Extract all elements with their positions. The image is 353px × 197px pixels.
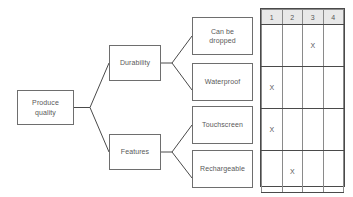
matrix-cell[interactable]: X (262, 109, 283, 151)
table-row: X (262, 67, 344, 109)
matrix-column-header-4[interactable]: 4 (323, 10, 344, 25)
matrix-mark: X (290, 168, 295, 175)
matrix-mark: X (269, 126, 274, 133)
matrix-cell[interactable] (282, 67, 303, 109)
matrix-column-header-2[interactable]: 2 (282, 10, 303, 25)
matrix-cell[interactable] (323, 109, 344, 151)
matrix-cell[interactable]: X (282, 151, 303, 193)
matrix-cell[interactable] (282, 25, 303, 67)
rating-matrix: 1 2 3 4 X X (260, 8, 345, 187)
node-features[interactable]: Features (109, 134, 161, 170)
node-can-be-dropped[interactable]: Can be dropped (192, 17, 253, 55)
table-row: X (262, 25, 344, 67)
matrix-cell[interactable] (303, 151, 324, 193)
connector-durability-to-candrop (172, 36, 192, 63)
node-touchscreen[interactable]: Touchscreen (192, 106, 253, 144)
matrix-cell[interactable]: X (262, 67, 283, 109)
connector-features-to-rechargeable (172, 152, 192, 178)
matrix-column-header-3[interactable]: 3 (303, 10, 324, 25)
matrix-cell[interactable] (323, 25, 344, 67)
matrix-cell[interactable] (323, 67, 344, 109)
matrix-cell[interactable] (262, 25, 283, 67)
matrix-cell[interactable] (282, 109, 303, 151)
table-row: X (262, 109, 344, 151)
connector-root-to-features (90, 108, 109, 153)
matrix-cell[interactable]: X (303, 25, 324, 67)
node-waterproof[interactable]: Waterproof (192, 63, 253, 101)
table-row: X (262, 151, 344, 193)
matrix-mark: X (269, 84, 274, 91)
matrix-cell[interactable] (262, 151, 283, 193)
node-root[interactable]: Produce quality (17, 90, 74, 125)
matrix-cell[interactable] (303, 67, 324, 109)
matrix-column-header-1[interactable]: 1 (262, 10, 283, 25)
connector-durability-to-waterproof (172, 63, 192, 90)
matrix-header-row: 1 2 3 4 (262, 10, 344, 25)
connector-features-to-touchscreen (172, 125, 192, 152)
rating-matrix-table: 1 2 3 4 X X (261, 9, 344, 193)
matrix-cell[interactable] (323, 151, 344, 193)
node-rechargeable[interactable]: Rechargeable (192, 150, 253, 188)
node-durability[interactable]: Durability (109, 45, 161, 81)
matrix-cell[interactable] (303, 109, 324, 151)
connector-root-to-durability (90, 63, 109, 108)
diagram-canvas: Produce quality Durability Features Can … (0, 0, 353, 197)
matrix-mark: X (310, 42, 315, 49)
